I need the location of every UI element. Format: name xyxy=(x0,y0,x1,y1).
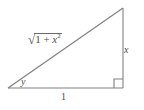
radical-expression: √1 + x2 xyxy=(28,33,62,46)
angle-label: y xyxy=(21,77,25,87)
radicand: 1 + x2 xyxy=(34,33,62,45)
radicand-exponent: 2 xyxy=(57,32,61,40)
triangle-figure: √1 + x2 x 1 y xyxy=(0,0,144,110)
hypotenuse-line xyxy=(8,8,123,88)
right-angle-marker xyxy=(114,79,123,88)
base-leg-label: 1 xyxy=(61,92,66,102)
radicand-constant: 1 + xyxy=(35,33,52,45)
vertical-leg-label: x xyxy=(124,45,128,55)
hypotenuse-label: √1 + x2 xyxy=(28,33,62,46)
triangle-drawing xyxy=(0,0,144,110)
